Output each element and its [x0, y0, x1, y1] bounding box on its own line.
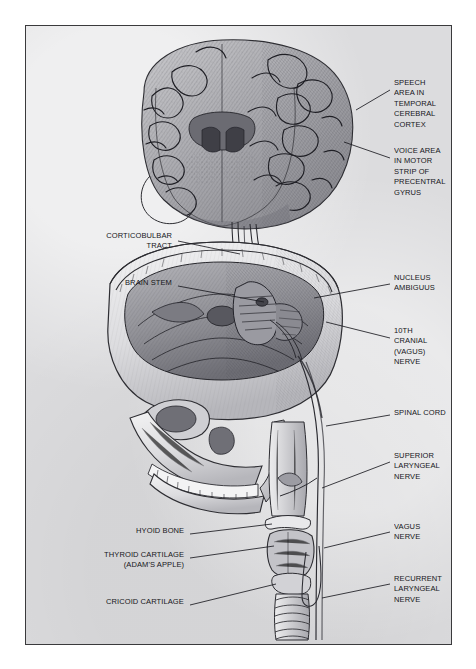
- thyroid-cartilage-illustration: [267, 530, 314, 578]
- brain-illustration: [136, 36, 372, 236]
- label-spinal-cord: SPINAL CORD: [394, 408, 446, 418]
- label-nucleus-ambiguus: NUCLEUS AMBIGUUS: [394, 273, 435, 294]
- label-brain-stem: BRAIN STEM: [125, 278, 172, 288]
- cricoid-cartilage-illustration: [272, 573, 311, 595]
- label-vagus-10th-cranial: 10TH CRANIAL (VAGUS) NERVE: [394, 326, 427, 368]
- hyoid-bone-illustration: [265, 516, 310, 530]
- label-vagus-nerve: VAGUS NERVE: [394, 522, 420, 543]
- label-hyoid-bone: HYOID BONE: [136, 526, 184, 536]
- anatomy-illustration: [26, 26, 452, 645]
- label-recurrent-laryngeal-nerve: RECURRENT LARYNGEAL NERVE: [394, 574, 442, 605]
- label-speech-area: SPEECH AREA IN TEMPORAL CEREBRAL CORTEX: [394, 78, 436, 130]
- anatomy-plate: SPEECH AREA IN TEMPORAL CEREBRAL CORTEX …: [25, 25, 452, 645]
- label-cricoid-cartilage: CRICOID CARTILAGE: [106, 597, 184, 607]
- label-thyroid-cartilage: THYROID CARTILAGE (ADAM'S APPLE): [104, 550, 184, 571]
- label-corticobulbar-tract: CORTICOBULBAR TRACT: [106, 231, 172, 252]
- trachea-illustration: [275, 594, 310, 640]
- label-superior-laryngeal-nerve: SUPERIOR LARYNGEAL NERVE: [394, 451, 440, 482]
- label-voice-area: VOICE AREA IN MOTOR STRIP OF PRECENTRAL …: [394, 146, 446, 198]
